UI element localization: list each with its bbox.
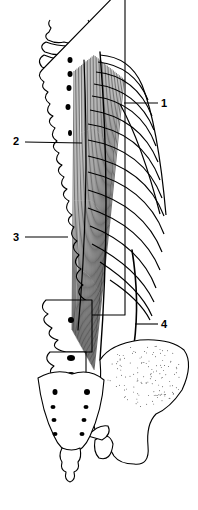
label-3: 3 <box>13 231 68 243</box>
stipple-dot <box>170 385 171 386</box>
stipple-dot <box>137 381 138 382</box>
stipple-dot <box>164 395 165 396</box>
stipple-dot <box>154 395 155 396</box>
stipple-dot <box>176 372 177 373</box>
stipple-dot <box>159 390 160 391</box>
stipple-dot <box>162 400 163 401</box>
stipple-dot <box>170 361 171 362</box>
stipple-dot <box>141 383 142 384</box>
stipple-dot <box>136 403 137 404</box>
stipple-dot <box>160 365 161 366</box>
stipple-dot <box>137 393 138 394</box>
stipple-dot <box>141 357 142 358</box>
stipple-dot <box>161 377 162 378</box>
stipple-dot <box>164 365 165 366</box>
stipple-dot <box>161 394 162 395</box>
stipple-dot <box>124 358 125 359</box>
stipple-dot <box>174 374 175 375</box>
stipple-dot <box>137 367 138 368</box>
stipple-dot <box>143 362 144 363</box>
stipple-dot <box>173 394 174 395</box>
stipple-dot <box>146 352 147 353</box>
stipple-dot <box>133 387 134 388</box>
stipple-dot <box>161 394 162 395</box>
stipple-dot <box>153 371 154 372</box>
stipple-dot <box>130 363 131 364</box>
stipple-dot <box>108 380 109 381</box>
stipple-dot <box>164 392 165 393</box>
stipple-dot <box>161 367 162 368</box>
stipple-dot <box>124 385 125 386</box>
stipple-dot <box>124 397 125 398</box>
stipple-dot <box>148 395 149 396</box>
stipple-dot <box>164 355 165 356</box>
stipple-dot <box>125 396 126 397</box>
stipple-dot <box>160 353 161 354</box>
stipple-dot <box>169 398 170 399</box>
stipple-dot <box>162 360 163 361</box>
stipple-dot <box>150 374 151 375</box>
stipple-dot <box>147 347 148 348</box>
pelvis <box>88 340 189 464</box>
stipple-dot <box>162 377 163 378</box>
stipple-dot <box>143 376 144 377</box>
stipple-dot <box>153 404 154 405</box>
stipple-dot <box>179 377 180 378</box>
stipple-dot <box>140 358 141 359</box>
stipple-dot <box>158 385 159 386</box>
stipple-dot <box>165 394 166 395</box>
stipple-dot <box>162 350 163 351</box>
anatomy-illustration: 1 2 3 4 <box>0 0 198 510</box>
stipple-dot <box>146 363 147 364</box>
label-number-2: 2 <box>13 135 19 147</box>
stipple-dot <box>151 376 152 377</box>
stipple-dot <box>121 375 122 376</box>
stipple-dot <box>165 374 166 375</box>
stipple-dot <box>119 355 120 356</box>
stipple-dot <box>178 389 179 390</box>
stipple-dot <box>117 368 118 369</box>
stipple-dot <box>141 362 142 363</box>
stipple-dot <box>168 366 169 367</box>
stipple-dot <box>133 392 134 393</box>
stipple-dot <box>156 365 157 366</box>
stipple-dot <box>172 392 173 393</box>
stipple-dot <box>153 352 154 353</box>
stipple-dot <box>155 380 156 381</box>
stipple-dot <box>155 356 156 357</box>
stipple-dot <box>120 359 121 360</box>
stipple-dot <box>167 350 168 351</box>
stipple-dot <box>116 377 117 378</box>
sacrum <box>38 372 104 482</box>
stipple-dot <box>147 382 148 383</box>
stipple-dot <box>141 363 142 364</box>
stipple-dot <box>117 361 118 362</box>
stipple-dot <box>117 354 118 355</box>
stipple-dot <box>133 351 134 352</box>
stipple-dot <box>133 374 134 375</box>
stipple-dot <box>141 382 142 383</box>
stipple-dot <box>160 349 161 350</box>
stipple-dot <box>110 380 111 381</box>
stipple-dot <box>155 395 156 396</box>
stipple-dot <box>176 387 177 388</box>
stipple-dot <box>156 371 157 372</box>
stipple-dot <box>178 364 179 365</box>
stipple-dot <box>120 365 121 366</box>
label-number-1: 1 <box>161 97 167 109</box>
stipple-dot <box>126 389 127 390</box>
stipple-dot <box>137 372 138 373</box>
stipple-dot <box>155 346 156 347</box>
stipple-dot <box>162 386 163 387</box>
stipple-dot <box>160 395 161 396</box>
stipple-dot <box>157 397 158 398</box>
stipple-dot <box>148 366 149 367</box>
stipple-dot <box>138 395 139 396</box>
stipple-dot <box>159 373 160 374</box>
stipple-dot <box>170 362 171 363</box>
stipple-dot <box>120 360 121 361</box>
stipple-dot <box>176 367 177 368</box>
stipple-dot <box>173 393 174 394</box>
stipple-dot <box>112 364 113 365</box>
stipple-dot <box>172 385 173 386</box>
